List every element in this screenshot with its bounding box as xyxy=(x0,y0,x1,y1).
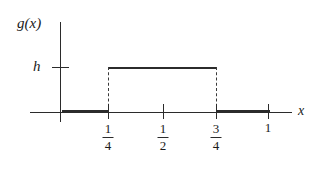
fraction-three-quarters: 3 4 xyxy=(211,122,222,152)
fraction-one-half: 1 2 xyxy=(158,122,169,152)
x-axis-tick-three-quarter xyxy=(216,104,217,119)
function-plot-figure: g(x) x h 1 4 1 2 3 4 1 xyxy=(0,0,325,177)
x-axis-tick-quarter xyxy=(108,104,109,119)
y-tick-label-h: h xyxy=(33,59,41,74)
x-tick-label-one: 1 xyxy=(265,121,272,134)
x-axis-label: x xyxy=(298,104,304,118)
y-axis-tick-h xyxy=(52,67,69,68)
x-tick-label-half: 1 2 xyxy=(158,122,169,152)
x-axis-tick-half xyxy=(163,104,164,119)
graph-segment-plateau xyxy=(108,67,216,69)
graph-segment-zero-right xyxy=(216,110,270,112)
y-axis-label: g(x) xyxy=(17,16,41,31)
graph-segment-zero-left xyxy=(62,110,109,112)
y-axis xyxy=(60,22,61,122)
fraction-one-quarter: 1 4 xyxy=(103,122,114,152)
x-axis-tick-one xyxy=(268,104,269,119)
x-tick-label-three-quarter: 3 4 xyxy=(211,122,222,152)
x-tick-label-quarter: 1 4 xyxy=(103,122,114,152)
